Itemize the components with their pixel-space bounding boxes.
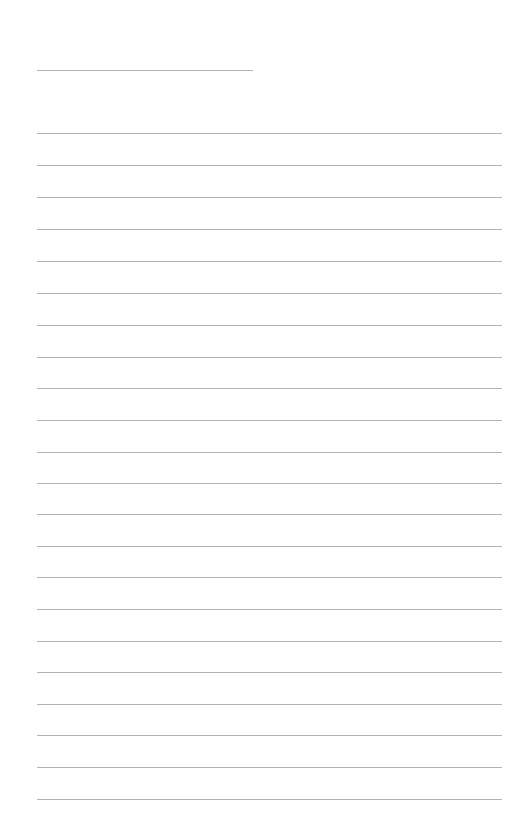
- writing-line: [37, 483, 502, 484]
- writing-line: [37, 799, 502, 800]
- lined-paper-page: [0, 0, 529, 832]
- writing-line: [37, 735, 502, 736]
- title-line: [37, 70, 253, 71]
- writing-line: [37, 514, 502, 515]
- writing-line: [37, 165, 502, 166]
- writing-line: [37, 325, 502, 326]
- writing-line: [37, 357, 502, 358]
- writing-line: [37, 577, 502, 578]
- writing-line: [37, 452, 502, 453]
- writing-line: [37, 229, 502, 230]
- writing-line: [37, 197, 502, 198]
- writing-line: [37, 767, 502, 768]
- writing-line: [37, 388, 502, 389]
- writing-line: [37, 133, 502, 134]
- writing-line: [37, 641, 502, 642]
- writing-line: [37, 704, 502, 705]
- writing-line: [37, 420, 502, 421]
- writing-line: [37, 546, 502, 547]
- writing-line: [37, 261, 502, 262]
- writing-line: [37, 293, 502, 294]
- writing-line: [37, 609, 502, 610]
- writing-line: [37, 672, 502, 673]
